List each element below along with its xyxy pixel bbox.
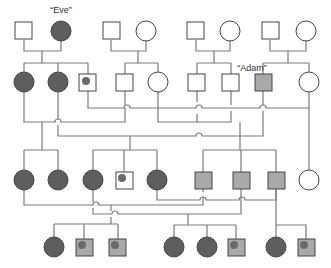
female-affected-symbol bbox=[48, 72, 68, 92]
male-unaffected-symbol bbox=[187, 22, 204, 39]
adam-label: “Adam” bbox=[237, 63, 267, 73]
male-unaffected-symbol bbox=[188, 74, 205, 91]
pedigree-diagram: “Eve” “Adam” bbox=[0, 0, 331, 268]
female-affected-symbol bbox=[147, 170, 167, 190]
female-affected-symbol bbox=[266, 237, 286, 257]
female-affected-symbol bbox=[83, 170, 103, 190]
male-unaffected-symbol bbox=[116, 74, 133, 91]
female-affected-symbol bbox=[197, 237, 217, 257]
generation-1 bbox=[15, 21, 316, 41]
generation-4 bbox=[44, 237, 315, 257]
carrier-dot bbox=[300, 241, 308, 249]
eve-label: “Eve” bbox=[50, 5, 72, 15]
carrier-dot bbox=[111, 241, 119, 249]
female-unaffected-symbol bbox=[220, 21, 240, 41]
male-unaffected-symbol bbox=[15, 22, 32, 39]
female-unaffected-symbol bbox=[299, 170, 319, 190]
female-unaffected-symbol bbox=[296, 21, 316, 41]
male-unaffected-symbol bbox=[103, 22, 120, 39]
generation-2 bbox=[14, 72, 319, 92]
male-affected-symbol-adam bbox=[255, 74, 272, 91]
male-unaffected-symbol bbox=[262, 22, 279, 39]
male-unaffected-symbol bbox=[222, 74, 239, 91]
female-affected-symbol-eve bbox=[51, 21, 71, 41]
female-affected-symbol bbox=[14, 72, 34, 92]
female-unaffected-symbol bbox=[299, 72, 319, 92]
pedigree-lines bbox=[0, 0, 331, 268]
male-affected-symbol bbox=[195, 172, 212, 189]
male-affected-symbol bbox=[233, 172, 250, 189]
female-unaffected-symbol bbox=[136, 21, 156, 41]
carrier-dot bbox=[82, 77, 90, 85]
female-affected-symbol bbox=[14, 170, 34, 190]
carrier-dot bbox=[78, 241, 86, 249]
carrier-dot bbox=[118, 174, 126, 182]
female-affected-symbol bbox=[48, 170, 68, 190]
male-affected-symbol bbox=[268, 172, 285, 189]
female-affected-symbol bbox=[44, 237, 64, 257]
female-unaffected-symbol bbox=[148, 72, 168, 92]
carrier-dot bbox=[230, 241, 238, 249]
generation-3 bbox=[14, 170, 319, 190]
female-affected-symbol bbox=[164, 237, 184, 257]
